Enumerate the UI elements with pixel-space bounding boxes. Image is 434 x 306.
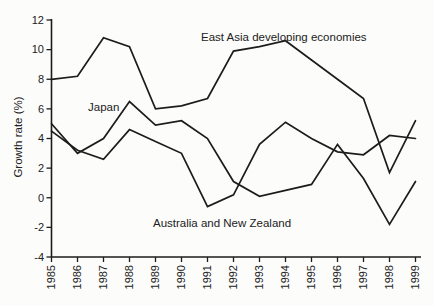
x-tick-label-1987: 1987 — [97, 265, 109, 289]
x-tick-label-1998: 1998 — [383, 265, 395, 289]
growth-rate-line-chart: 121086420-2-4198519861987198819891990199… — [0, 0, 434, 306]
y-tick-label-6: 6 — [38, 103, 44, 115]
y-tick-label-2: 2 — [38, 162, 44, 174]
x-tick-label-1996: 1996 — [331, 265, 343, 289]
growth-rate-figure: 121086420-2-4198519861987198819891990199… — [0, 0, 434, 306]
x-tick-label-1997: 1997 — [357, 265, 369, 289]
y-tick-label--4: -4 — [34, 251, 44, 263]
x-tick-label-1989: 1989 — [149, 265, 161, 289]
x-tick-label-1988: 1988 — [123, 265, 135, 289]
annotation-japan: Japan — [88, 101, 119, 113]
y-tick-label--2: -2 — [34, 221, 44, 233]
x-tick-label-1993: 1993 — [253, 265, 265, 289]
x-tick-label-1999: 1999 — [409, 265, 421, 289]
y-tick-label-12: 12 — [32, 14, 44, 26]
x-tick-label-1992: 1992 — [227, 265, 239, 289]
x-tick-label-1990: 1990 — [175, 265, 187, 289]
x-tick-label-1994: 1994 — [279, 265, 291, 289]
y-tick-label-0: 0 — [38, 192, 44, 204]
series-line-japan — [52, 102, 416, 225]
y-tick-label-10: 10 — [32, 43, 44, 55]
x-tick-label-1985: 1985 — [45, 265, 57, 289]
x-tick-label-1995: 1995 — [305, 265, 317, 289]
y-axis-title: Growth rate (%) — [12, 96, 24, 177]
annotation-east-asia-developing-economies: East Asia developing economies — [201, 31, 367, 43]
x-tick-label-1991: 1991 — [201, 265, 213, 289]
x-tick-label-1986: 1986 — [71, 265, 83, 289]
y-tick-label-8: 8 — [38, 73, 44, 85]
annotation-australia-and-new-zealand: Australia and New Zealand — [153, 217, 291, 229]
y-tick-label-4: 4 — [38, 132, 44, 144]
